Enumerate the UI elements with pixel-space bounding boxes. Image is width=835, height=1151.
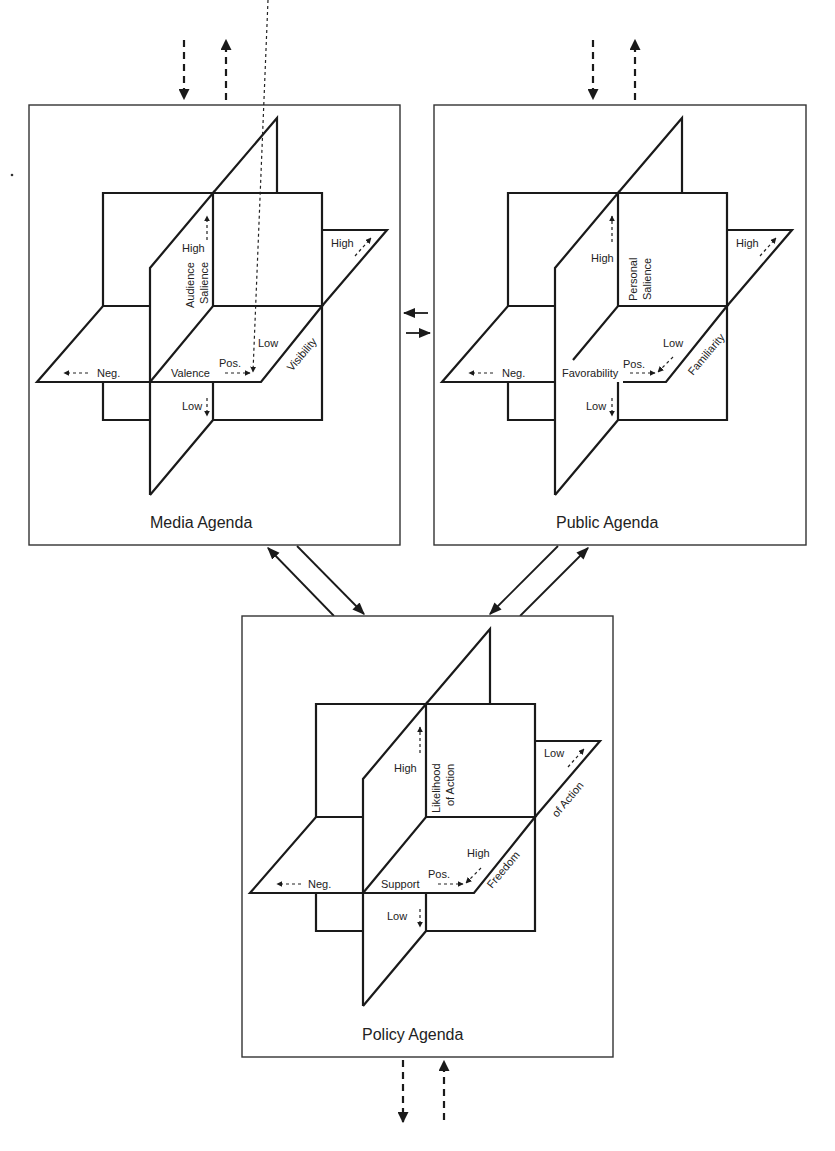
policy-horizontal-neg: Neg. <box>308 878 331 890</box>
public-vertical-high: High <box>591 252 614 264</box>
public-horizontal-pos: Pos. <box>623 358 645 370</box>
public-vertical-label-1: Personal <box>627 258 639 301</box>
media-vertical-label-1: Audience <box>184 262 196 308</box>
panel-policy: High Low Neg. Support Pos. High Low Free… <box>242 616 613 1057</box>
public-agenda-title: Public Agenda <box>556 514 658 531</box>
media-agenda-title: Media Agenda <box>150 514 252 531</box>
public-depth-high: High <box>736 237 759 249</box>
public-horizontal-neg: Neg. <box>502 367 525 379</box>
policy-agenda-title: Policy Agenda <box>362 1026 464 1043</box>
policy-depth-low: Low <box>544 747 564 759</box>
media-external-arrows <box>184 40 226 100</box>
media-policy-arrows <box>268 546 364 616</box>
public-box <box>434 105 806 545</box>
media-vertical-high: High <box>182 242 205 254</box>
public-depth-low: Low <box>663 337 683 349</box>
policy-horizontal-label: Support <box>381 878 420 890</box>
public-vertical-low: Low <box>586 400 606 412</box>
agenda-diagram: High Low Neg. Valence Pos. Low High Visi… <box>0 0 835 1151</box>
media-depth-low: Low <box>258 337 278 349</box>
policy-vertical-label-1: Likelihood <box>430 763 442 813</box>
policy-external-arrows <box>403 1060 444 1122</box>
policy-vertical-low: Low <box>387 910 407 922</box>
media-vertical-low: Low <box>182 400 202 412</box>
public-horizontal-label: Favorability <box>562 367 619 379</box>
policy-depth-high: High <box>467 847 490 859</box>
media-horizontal-label: Valence <box>171 367 210 379</box>
media-box <box>29 105 400 545</box>
policy-horizontal-pos: Pos. <box>428 868 450 880</box>
media-horizontal-pos: Pos. <box>219 357 241 369</box>
media-horizontal-neg: Neg. <box>97 367 120 379</box>
public-policy-arrows <box>490 546 588 616</box>
policy-vertical-high: High <box>394 762 417 774</box>
stray-dot <box>11 174 14 177</box>
panel-media: High Low Neg. Valence Pos. Low High Visi… <box>29 0 400 545</box>
policy-vertical-label-2: of Action <box>444 764 456 806</box>
public-external-arrows <box>593 40 635 100</box>
public-vertical-label-2: Salience <box>641 258 653 300</box>
panel-public: High Low Neg. Favorability Pos. Low High… <box>434 105 806 545</box>
media-public-arrows <box>404 313 430 333</box>
media-depth-high: High <box>331 237 354 249</box>
media-vertical-label-2: Salience <box>198 262 210 304</box>
